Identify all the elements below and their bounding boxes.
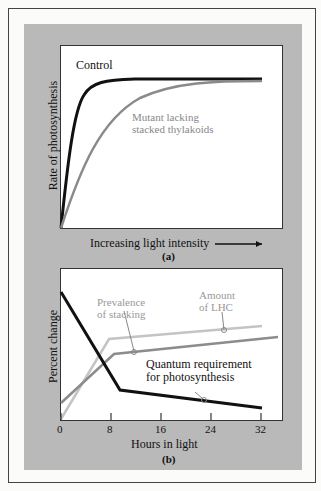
label-stacking-line2: of stacking bbox=[97, 308, 146, 320]
label-lhc-line1: Amount bbox=[199, 289, 235, 301]
y-axis-label-b: Percent change bbox=[46, 302, 61, 392]
label-quantum-line2: for photosynthesis bbox=[146, 370, 234, 385]
x-tick-32: 32 bbox=[255, 423, 266, 435]
x-tick-16: 16 bbox=[155, 423, 166, 435]
label-stacking-line1: Prevalence bbox=[97, 296, 145, 308]
x-axis-label-b: Hours in light bbox=[131, 437, 198, 452]
x-tick-8: 8 bbox=[107, 423, 113, 435]
x-tick-24: 24 bbox=[205, 423, 216, 435]
panel-label-b: (b) bbox=[162, 453, 175, 465]
label-lhc-line2: of LHC bbox=[199, 301, 233, 313]
x-tick-0: 0 bbox=[57, 423, 63, 435]
plot-b-curves bbox=[0, 0, 321, 491]
